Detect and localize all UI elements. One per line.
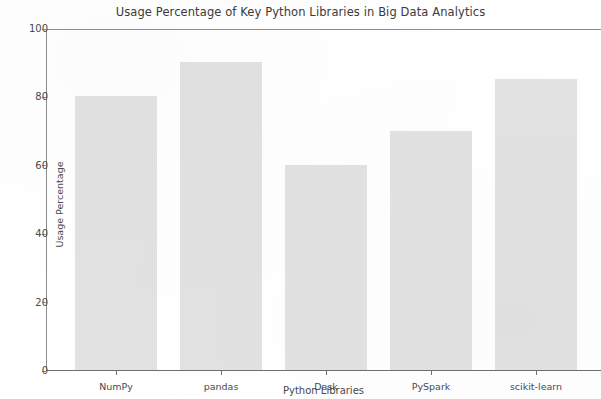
y-tick-label: 20 bbox=[8, 298, 48, 308]
y-tick-label: 0 bbox=[8, 366, 48, 376]
x-tick-mark bbox=[431, 371, 432, 375]
bar bbox=[495, 79, 577, 370]
bar bbox=[180, 62, 262, 370]
y-tick-label: 80 bbox=[8, 92, 48, 102]
chart-title: Usage Percentage of Key Python Libraries… bbox=[0, 5, 601, 19]
bar bbox=[285, 165, 367, 370]
bar bbox=[75, 96, 157, 370]
bar-chart-figure: Usage Percentage of Key Python Libraries… bbox=[0, 0, 601, 399]
plot-area: 020406080100 NumPypandasDaskPySparksciki… bbox=[46, 29, 601, 371]
x-tick-mark bbox=[221, 371, 222, 375]
axis-spine-left bbox=[46, 29, 47, 371]
y-tick-label: 100 bbox=[8, 24, 48, 34]
x-tick-mark bbox=[116, 371, 117, 375]
bar bbox=[390, 131, 472, 370]
x-tick-mark bbox=[326, 371, 327, 375]
y-tick-label: 60 bbox=[8, 161, 48, 171]
x-axis-label: Python Libraries bbox=[46, 385, 601, 396]
axis-spine-bottom bbox=[46, 370, 601, 371]
y-tick-label: 40 bbox=[8, 229, 48, 239]
x-tick-mark bbox=[536, 371, 537, 375]
axis-spine-top bbox=[46, 29, 601, 30]
y-axis-label: Usage Percentage bbox=[54, 145, 65, 265]
